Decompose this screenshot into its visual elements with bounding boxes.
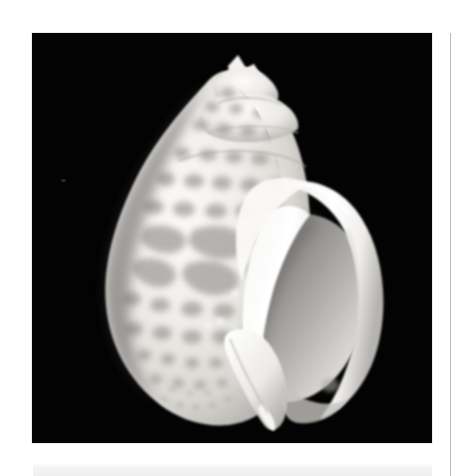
bottom-band <box>33 463 432 476</box>
dust-speck <box>61 179 66 182</box>
shell-illustration <box>32 33 432 443</box>
document-page <box>0 0 459 476</box>
column-rule <box>450 33 451 476</box>
shell-photograph <box>32 33 432 443</box>
